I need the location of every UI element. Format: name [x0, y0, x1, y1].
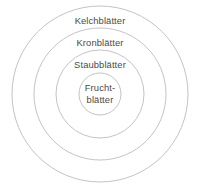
- ring-circle-staubblaetter: [56, 50, 144, 138]
- ring-circle-kelchblaetter: [12, 6, 188, 182]
- concentric-circles-graphic: [0, 0, 200, 191]
- ring-circle-kronblaetter: [34, 28, 166, 160]
- flower-structure-diagram: Kelchblätter Kronblätter Staubblätter Fr…: [0, 0, 200, 191]
- ring-circle-fruchtblaetter: [79, 73, 121, 115]
